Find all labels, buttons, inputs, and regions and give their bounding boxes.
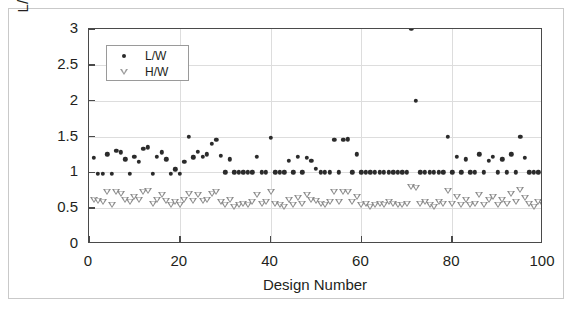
- data-point-lw: [296, 154, 300, 158]
- x-axis-tick: [89, 236, 90, 242]
- data-point-lw: [495, 170, 499, 174]
- data-point-lw: [450, 170, 454, 174]
- data-point-hw-inner: [509, 191, 513, 195]
- data-point-lw: [504, 170, 508, 174]
- data-point-lw: [196, 149, 200, 153]
- data-point-hw-inner: [523, 196, 527, 200]
- legend-entry-hw: H/W: [107, 64, 188, 80]
- open-triangle-down-icon: [119, 64, 131, 80]
- data-point-lw: [287, 159, 291, 163]
- y-axis-label-container: L/W & H/W Ratios: [18, 30, 42, 240]
- data-point-lw: [459, 170, 463, 174]
- y-axis-tick: [89, 64, 95, 66]
- data-point-hw-inner: [337, 200, 341, 204]
- data-point-hw-inner: [282, 204, 286, 208]
- data-point-hw-inner: [450, 201, 454, 205]
- data-point-lw: [100, 172, 104, 176]
- data-point-hw-inner: [191, 199, 195, 203]
- data-point-hw-inner: [182, 197, 186, 201]
- data-point-lw: [123, 157, 127, 161]
- data-point-hw-inner: [187, 191, 191, 195]
- data-point-lw: [486, 159, 490, 163]
- data-point-lw: [91, 156, 95, 160]
- x-axis-tick: [451, 236, 453, 242]
- data-point-hw-inner: [296, 196, 300, 200]
- data-point-hw-inner: [346, 190, 350, 194]
- data-point-lw: [119, 150, 123, 154]
- data-point-lw: [414, 98, 418, 102]
- data-point-hw-inner: [514, 200, 518, 204]
- data-point-lw: [169, 172, 173, 176]
- data-point-lw: [164, 157, 168, 161]
- data-point-lw: [336, 170, 340, 174]
- y-axis-tick: [89, 207, 95, 209]
- data-point-lw: [173, 167, 177, 171]
- data-point-hw-inner: [214, 190, 218, 194]
- data-point-hw-inner: [128, 200, 132, 204]
- data-point-lw: [128, 172, 132, 176]
- data-point-lw: [514, 170, 518, 174]
- data-point-lw: [105, 152, 109, 156]
- data-point-hw-inner: [264, 200, 268, 204]
- data-point-lw: [309, 159, 313, 163]
- data-point-lw: [405, 170, 409, 174]
- data-point-lw: [441, 170, 445, 174]
- data-point-lw: [473, 170, 477, 174]
- data-point-hw-inner: [196, 193, 200, 197]
- legend: L/W H/W: [106, 45, 189, 81]
- y-axis-label: L/W & H/W Ratios: [14, 0, 31, 52]
- data-point-lw: [464, 157, 468, 161]
- data-point-hw-inner: [119, 191, 123, 195]
- data-point-hw-inner: [473, 201, 477, 205]
- gridline-horizontal: [89, 137, 541, 138]
- x-tick-label: 80: [443, 253, 460, 268]
- data-point-lw: [137, 159, 141, 163]
- y-axis-tick: [89, 172, 95, 174]
- data-point-lw: [350, 170, 354, 174]
- data-point-lw: [518, 134, 522, 138]
- gridline-vertical: [361, 29, 362, 242]
- legend-label-lw: L/W: [145, 49, 166, 63]
- data-point-hw-inner: [250, 200, 254, 204]
- data-point-hw-inner: [477, 193, 481, 197]
- data-point-lw: [150, 172, 154, 176]
- x-axis-tick: [361, 236, 363, 242]
- data-point-hw-inner: [518, 187, 522, 191]
- data-point-lw: [482, 170, 486, 174]
- data-point-lw: [291, 170, 295, 174]
- data-point-lw: [214, 138, 218, 142]
- data-point-lw: [509, 152, 513, 156]
- data-point-hw-inner: [228, 197, 232, 201]
- data-point-lw: [300, 170, 304, 174]
- x-tick-label: 100: [529, 253, 554, 268]
- data-point-hw-inner: [414, 186, 418, 190]
- data-point-hw-inner: [291, 202, 295, 206]
- x-tick-label: 20: [170, 253, 187, 268]
- data-point-hw-inner: [101, 200, 105, 204]
- legend-entry-lw: L/W: [107, 48, 188, 64]
- gridline-horizontal: [89, 208, 541, 209]
- data-point-lw: [355, 152, 359, 156]
- data-point-lw: [282, 170, 286, 174]
- data-point-hw-inner: [137, 197, 141, 201]
- x-tick-label: 40: [261, 253, 278, 268]
- data-point-hw-inner: [205, 197, 209, 201]
- data-point-lw: [409, 29, 413, 31]
- figure: L/W & H/W Ratios Design Number 00.511.52…: [0, 0, 574, 309]
- data-point-hw-inner: [287, 197, 291, 201]
- data-point-lw: [332, 138, 336, 142]
- data-point-lw: [523, 156, 527, 160]
- y-axis-tick: [89, 29, 95, 30]
- y-tick-label: 2: [70, 92, 78, 107]
- x-axis-tick: [270, 236, 272, 242]
- data-point-hw-inner: [355, 194, 359, 198]
- data-point-lw: [264, 170, 268, 174]
- gridline-vertical: [452, 29, 453, 242]
- data-point-lw: [491, 154, 495, 158]
- data-point-lw: [109, 172, 113, 176]
- data-point-lw: [223, 170, 227, 174]
- data-point-lw: [445, 134, 449, 138]
- data-point-lw: [205, 152, 209, 156]
- data-point-lw: [250, 170, 254, 174]
- data-point-hw-inner: [110, 202, 114, 206]
